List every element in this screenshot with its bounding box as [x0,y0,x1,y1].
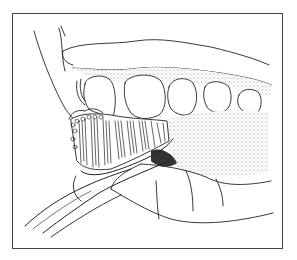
illustration-frame [12,13,283,249]
toothbrush-illustration [13,14,283,249]
